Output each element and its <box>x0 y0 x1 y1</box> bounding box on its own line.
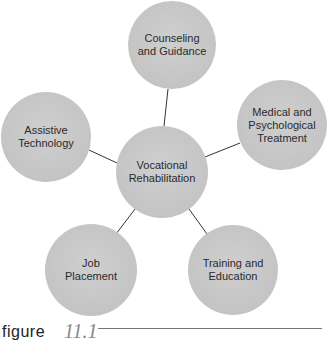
figure-word: figure <box>2 323 45 341</box>
edge-assistive <box>89 150 117 163</box>
edge-counseling <box>164 89 168 126</box>
figure-number: 11.1 <box>64 320 98 343</box>
edge-medical <box>205 143 240 157</box>
node-medical-and-psychological-treatment: Medical and Psychological Treatment <box>237 80 327 170</box>
node-counseling-and-guidance: Counseling and Guidance <box>128 1 216 89</box>
node-vocational-rehabilitation-hub: Vocational Rehabilitation <box>116 126 208 218</box>
node-label: Assistive Technology <box>12 124 80 150</box>
hub-label: Vocational Rehabilitation <box>123 159 202 185</box>
node-assistive-technology: Assistive Technology <box>1 92 91 182</box>
figure-caption: figure 11.1 <box>2 323 327 339</box>
edge-job <box>116 209 135 234</box>
node-label: Job Placement <box>59 257 123 283</box>
edge-training <box>189 209 207 234</box>
node-label: Medical and Psychological Treatment <box>242 106 321 145</box>
node-label: Training and Education <box>197 257 270 283</box>
caption-rule <box>98 328 322 329</box>
node-training-and-education: Training and Education <box>188 225 278 315</box>
node-label: Counseling and Guidance <box>132 32 213 58</box>
node-job-placement: Job Placement <box>45 224 137 316</box>
